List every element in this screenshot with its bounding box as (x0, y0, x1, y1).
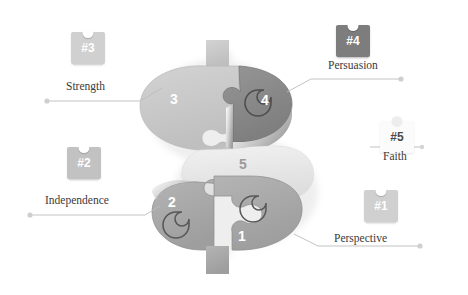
puzzle-shadow (148, 52, 318, 256)
callout-caption-3: Strength (66, 80, 105, 92)
callout-caption-5: Faith (383, 150, 407, 162)
puzzle-number-2: 2 (168, 194, 176, 210)
puzzle-number-5: 5 (239, 156, 247, 172)
callout-badge-label-2: #2 (77, 156, 91, 170)
leader-line-2 (30, 206, 160, 215)
callout-caption-1: Perspective (334, 232, 387, 244)
leader-dot-1 (417, 243, 422, 248)
puzzle-piece-5 (182, 146, 314, 196)
puzzle-piece-4-edge (233, 106, 292, 152)
callout-caption-4: Persuasion (328, 59, 378, 71)
callout-badge-1[interactable]: #1 (364, 190, 398, 222)
callout-badge-2[interactable]: #2 (67, 147, 101, 179)
leader-line-4 (287, 79, 401, 92)
badge-foot-3 (73, 64, 103, 67)
callout-caption-2: Independence (45, 194, 109, 206)
puzzle-piece-5-body (192, 146, 312, 196)
leader-dot-3 (44, 98, 49, 103)
puzzle-number-3: 3 (170, 91, 178, 107)
puzzle-piece-2-socket (163, 212, 189, 238)
dollar-top-stem (206, 40, 229, 66)
badge-foot-1 (366, 222, 396, 225)
infographic-canvas: 3 4 5 2 1 #3 Strength #4 Persuasion #2 I… (0, 0, 468, 295)
puzzle-number-1: 1 (238, 228, 246, 244)
pin-icon-4 (348, 20, 359, 31)
callout-badge-3[interactable]: #3 (71, 32, 105, 64)
pin-icon-5 (392, 116, 403, 127)
puzzle-piece-1 (214, 176, 302, 250)
puzzle-piece-3 (140, 66, 239, 150)
callout-badge-label-4: #4 (346, 34, 360, 48)
leader-dot-5 (420, 145, 424, 149)
puzzle-piece-4-side (226, 104, 233, 152)
callout-badge-label-3: #3 (81, 41, 95, 55)
puzzle-piece-2 (152, 180, 221, 251)
badge-foot-2 (69, 179, 99, 182)
pin-icon-3 (83, 27, 94, 38)
callout-badge-5[interactable]: #5 (380, 121, 414, 153)
puzzle-piece-1-socket (240, 196, 266, 222)
leader-dot-2 (27, 212, 32, 217)
pin-icon-2 (79, 142, 90, 153)
dollar-bottom-stem (206, 246, 229, 274)
callout-badge-label-1: #1 (374, 199, 388, 213)
puzzle-piece-4 (223, 66, 292, 142)
leader-dot-4 (398, 76, 403, 81)
callout-badge-4[interactable]: #4 (336, 25, 370, 57)
puzzle-number-4: 4 (261, 92, 269, 108)
callout-badge-label-5: #5 (390, 130, 404, 144)
pin-icon-1 (376, 185, 387, 196)
